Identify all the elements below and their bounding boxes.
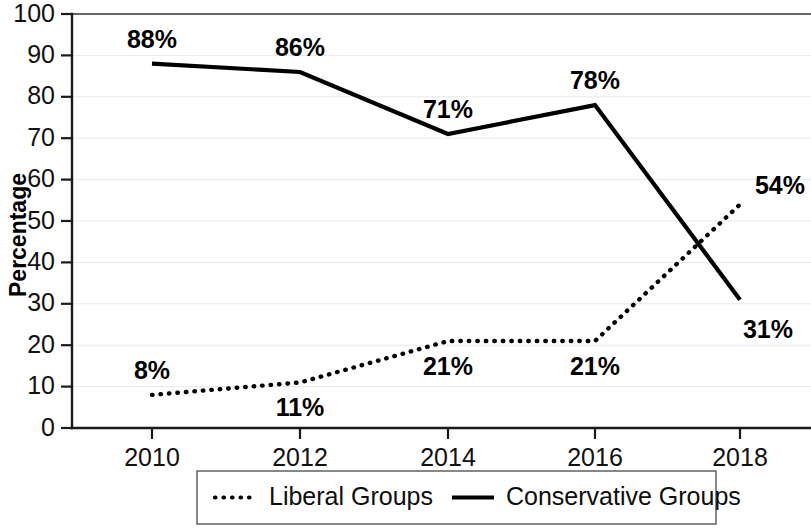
y-tick-label: 0 (41, 413, 55, 441)
data-point-label: 21% (570, 352, 620, 380)
x-tick-label: 2012 (272, 443, 328, 471)
data-point-label: 21% (423, 352, 473, 380)
data-point-labels-group: 8%11%21%21%54%88%86%71%78%31% (127, 25, 805, 422)
legend-label: Liberal Groups (269, 482, 433, 510)
data-point-label: 88% (127, 25, 177, 53)
y-tick-label: 50 (27, 206, 55, 234)
data-point-label: 8% (134, 356, 170, 384)
data-point-label: 78% (570, 66, 620, 94)
chart-canvas: 0102030405060708090100 20102012201420162… (0, 0, 811, 528)
data-point-label: 54% (755, 171, 805, 199)
x-axis-ticks-group: 20102012201420162018 (124, 428, 768, 471)
y-tick-label: 60 (27, 164, 55, 192)
y-tick-label: 90 (27, 40, 55, 68)
y-tick-label: 20 (27, 330, 55, 358)
x-tick-label: 2016 (567, 443, 623, 471)
data-point-label: 31% (743, 315, 793, 343)
x-tick-label: 2018 (712, 443, 768, 471)
x-tick-label: 2010 (124, 443, 180, 471)
y-tick-label: 80 (27, 81, 55, 109)
data-point-label: 86% (275, 33, 325, 61)
x-tick-label: 2014 (420, 443, 476, 471)
y-tick-label: 100 (13, 0, 55, 27)
y-tick-label: 40 (27, 247, 55, 275)
y-tick-label: 10 (27, 371, 55, 399)
line-chart: 0102030405060708090100 20102012201420162… (0, 0, 811, 528)
legend-label: Conservative Groups (506, 482, 741, 510)
data-point-label: 71% (423, 95, 473, 123)
chart-legend: Liberal GroupsConservative Groups (197, 471, 741, 524)
y-axis-title: Percentage (5, 173, 31, 297)
y-tick-label: 30 (27, 288, 55, 316)
gridlines-group (72, 14, 811, 387)
y-tick-label: 70 (27, 123, 55, 151)
data-point-label: 11% (276, 393, 325, 421)
